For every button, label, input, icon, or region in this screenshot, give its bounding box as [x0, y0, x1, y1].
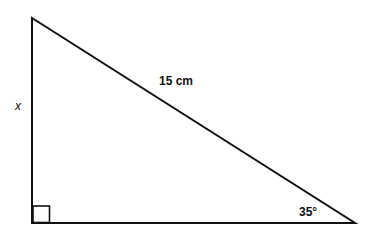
- side-x-label: x: [15, 99, 21, 113]
- hypotenuse-label: 15 cm: [159, 74, 193, 88]
- angle-label: 35°: [299, 205, 317, 219]
- right-angle-marker: [33, 206, 50, 223]
- triangle: [32, 18, 355, 223]
- triangle-figure: [0, 0, 370, 238]
